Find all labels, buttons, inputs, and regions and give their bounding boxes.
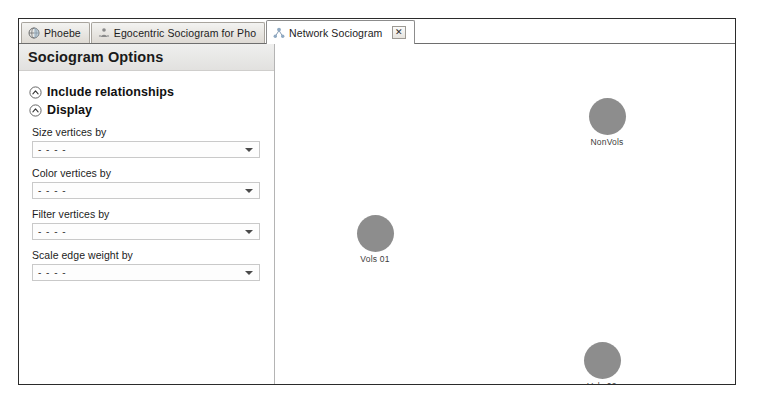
- window-body: Sociogram Options Include relationships: [19, 44, 735, 384]
- tab-network-sociogram[interactable]: Network Sociogram ✕: [266, 20, 415, 44]
- chevron-down-icon[interactable]: [245, 148, 253, 152]
- combo-value: - - - -: [38, 226, 67, 237]
- graph-node[interactable]: Vols 01: [357, 215, 394, 264]
- graph-node[interactable]: NonVols: [589, 98, 626, 147]
- field-color-vertices-by: Color vertices by - - - -: [32, 167, 260, 199]
- person-network-icon: [98, 27, 110, 39]
- display-fields: Size vertices by - - - - Color vertices …: [29, 126, 260, 281]
- application-window: Phoebe Egocentric Sociogram for Pho: [18, 18, 736, 385]
- panel-title: Sociogram Options: [28, 49, 163, 65]
- field-label: Color vertices by: [32, 167, 260, 179]
- chevron-up-circle-icon[interactable]: [29, 86, 42, 99]
- field-size-vertices-by: Size vertices by - - - -: [32, 126, 260, 158]
- field-scale-edge-weight-by: Scale edge weight by - - - -: [32, 249, 260, 281]
- node-circle[interactable]: [589, 98, 626, 135]
- sociogram-options-panel: Sociogram Options Include relationships: [19, 44, 275, 384]
- field-label: Scale edge weight by: [32, 249, 260, 261]
- panel-header: Sociogram Options: [19, 44, 274, 71]
- close-icon[interactable]: ✕: [392, 26, 406, 39]
- tab-label: Network Sociogram: [289, 27, 382, 39]
- globe-icon: [28, 27, 40, 39]
- tab-egocentric-sociogram[interactable]: Egocentric Sociogram for Pho: [91, 22, 265, 43]
- scale-edge-weight-by-select[interactable]: - - - -: [32, 264, 260, 281]
- chevron-up-circle-icon[interactable]: [29, 104, 42, 117]
- graph-node[interactable]: Vols 02: [584, 342, 621, 384]
- color-vertices-by-select[interactable]: - - - -: [32, 182, 260, 199]
- tab-label: Phoebe: [44, 27, 81, 39]
- section-label: Display: [47, 103, 92, 117]
- screenshot-root: Phoebe Egocentric Sociogram for Pho: [0, 0, 765, 413]
- node-label: Vols 02: [587, 381, 616, 384]
- node-circle[interactable]: [357, 215, 394, 252]
- combo-value: - - - -: [38, 144, 67, 155]
- sociogram-canvas[interactable]: NonVolsVols 01Vols 02: [275, 44, 735, 384]
- size-vertices-by-select[interactable]: - - - -: [32, 141, 260, 158]
- section-display[interactable]: Display: [29, 103, 260, 117]
- field-label: Size vertices by: [32, 126, 260, 138]
- chevron-down-icon[interactable]: [245, 230, 253, 234]
- field-label: Filter vertices by: [32, 208, 260, 220]
- node-label: Vols 01: [360, 254, 389, 264]
- tab-phoebe[interactable]: Phoebe: [21, 22, 90, 43]
- combo-value: - - - -: [38, 267, 67, 278]
- tab-label: Egocentric Sociogram for Pho: [114, 27, 256, 39]
- tab-bar: Phoebe Egocentric Sociogram for Pho: [19, 19, 735, 44]
- node-label: NonVols: [590, 137, 623, 147]
- section-include-relationships[interactable]: Include relationships: [29, 85, 260, 99]
- network-icon: [273, 27, 285, 39]
- section-label: Include relationships: [47, 85, 174, 99]
- panel-content: Include relationships Display Size verti…: [19, 71, 274, 281]
- chevron-down-icon[interactable]: [245, 189, 253, 193]
- node-circle[interactable]: [584, 342, 621, 379]
- filter-vertices-by-select[interactable]: - - - -: [32, 223, 260, 240]
- field-filter-vertices-by: Filter vertices by - - - -: [32, 208, 260, 240]
- chevron-down-icon[interactable]: [245, 271, 253, 275]
- combo-value: - - - -: [38, 185, 67, 196]
